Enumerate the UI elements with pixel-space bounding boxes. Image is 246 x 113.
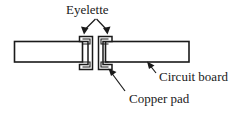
copper-pad-label: Copper pad xyxy=(129,91,190,106)
eyelette-label: Eyelette xyxy=(66,2,109,17)
diagram-canvas: Eyelette Copper pad Circuit board xyxy=(0,0,246,113)
circuit-board-label: Circuit board xyxy=(159,69,228,84)
eyelet-circuit-board-diagram: Eyelette Copper pad Circuit board xyxy=(0,0,246,113)
circuit-board-leader xyxy=(147,62,156,74)
copper-pad-leader xyxy=(109,69,126,92)
eyelette-leader xyxy=(81,19,111,35)
left-circuit-board xyxy=(15,42,83,63)
right-circuit-board xyxy=(106,42,190,63)
copper-pad-leader-line xyxy=(112,74,125,92)
